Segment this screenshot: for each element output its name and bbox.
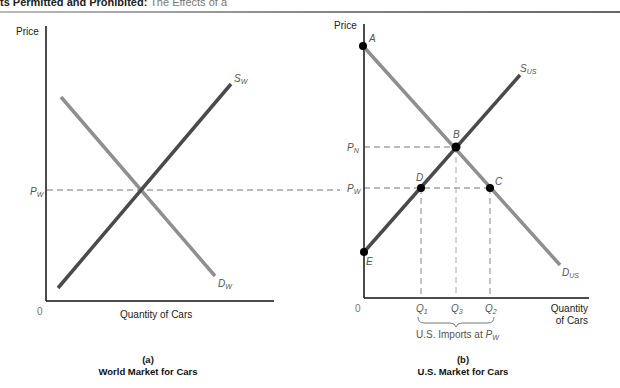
point-c [486,184,494,192]
demand-curve-us [363,46,560,265]
panel-b-origin: 0 [355,303,361,314]
q2-label: Q2 [485,303,497,315]
imports-label: U.S. Imports at PW [416,329,500,341]
panel-a-caption-title: World Market for Cars [98,366,197,377]
point-a [359,42,367,50]
panel-b-x-label-line1: Quantity [551,303,588,314]
pn-label: PN [347,142,360,154]
panel-b-x-label-line2: of Cars [556,315,588,326]
demand-curve-world [61,97,215,276]
panel-a-caption-letter: (a) [142,354,154,365]
panel-b-y-label: Price [334,20,357,31]
figure-canvas: Price 0 Quantity of Cars PW SW DW (a) Wo… [0,0,620,388]
point-b [452,143,461,152]
point-e [360,248,368,256]
demand-label-world: DW [218,278,233,290]
imports-brace [418,317,494,327]
demand-label-us: DUS [562,267,579,279]
point-b-label: B [453,129,460,140]
panel-b-caption-title: U.S. Market for Cars [418,366,509,377]
panel-a-origin: 0 [37,306,43,317]
panel-a-pw-label: PW [30,186,45,198]
point-d [417,184,425,192]
panel-b-caption-letter: (b) [457,354,469,365]
panel-a-x-label: Quantity of Cars [120,309,192,320]
panel-a: Price 0 Quantity of Cars PW SW DW (a) Wo… [16,26,340,377]
panel-a-y-label: Price [16,26,39,37]
point-e-label: E [366,256,373,267]
point-c-label: C [495,176,503,187]
pw-label-b: PW [347,183,362,195]
point-a-label: A [368,33,376,44]
supply-curve-us [364,75,520,252]
supply-curve-world [58,84,231,288]
point-d-label: D [416,172,423,183]
panel-b: A B C D E Price 0 PN PW SUS DUS Q1 Q3 Q2… [334,20,589,377]
supply-label-us: SUS [520,63,537,75]
q3-label: Q3 [451,303,463,315]
q1-label: Q1 [416,303,428,315]
supply-label-world: SW [234,73,249,85]
